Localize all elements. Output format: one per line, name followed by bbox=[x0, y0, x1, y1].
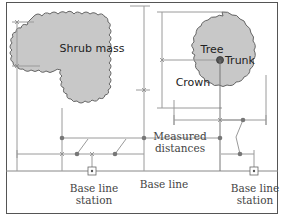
trunk-label: Trunk bbox=[224, 54, 256, 67]
diagram-frame: Shrub mass Tree Trunk Crown Measured dis… bbox=[0, 0, 284, 219]
shrub-mass-label: Shrub mass bbox=[60, 42, 125, 55]
station-left-label-1: Base line bbox=[70, 182, 119, 194]
tree-label: Tree bbox=[200, 43, 224, 56]
baseline-label: Base line bbox=[140, 178, 189, 190]
station-right-label-1: Base line bbox=[231, 182, 280, 194]
station-right-label-2: station bbox=[237, 194, 274, 206]
measured-distances-label-1: Measured bbox=[153, 130, 207, 142]
measured-distances-label-2: distances bbox=[155, 142, 205, 154]
baseline-station-left bbox=[88, 167, 96, 175]
baseline-measurement-diagram: Shrub mass Tree Trunk Crown Measured dis… bbox=[0, 0, 284, 219]
station-left-label-2: station bbox=[76, 194, 113, 206]
baseline-station-right bbox=[250, 167, 258, 175]
crown-label: Crown bbox=[176, 76, 211, 89]
